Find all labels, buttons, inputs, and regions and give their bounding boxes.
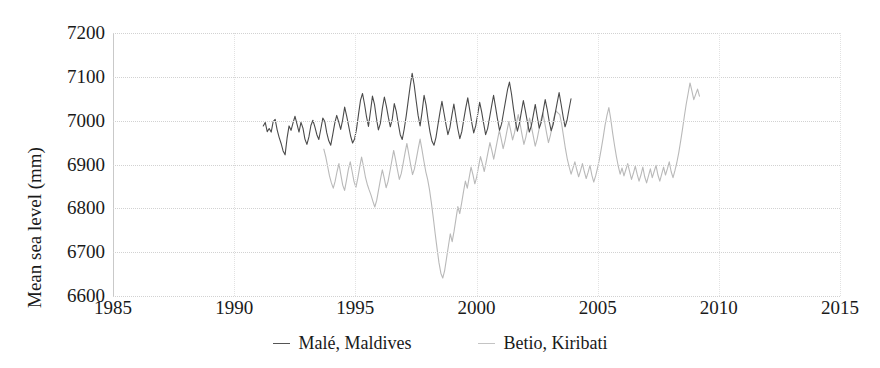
y-tick-6700: 6700 — [35, 242, 105, 261]
y-tick-7200: 7200 — [35, 23, 105, 42]
legend-label-betio: Betio, Kiribati — [504, 334, 608, 352]
y-tick-6900: 6900 — [35, 155, 105, 174]
x-tick-1990: 1990 — [189, 298, 279, 317]
legend-item-male: Malé, Maldives — [273, 334, 412, 352]
x-tick-2010: 2010 — [674, 298, 764, 317]
x-tick-1995: 1995 — [310, 298, 400, 317]
y-tick-6800: 6800 — [35, 198, 105, 217]
chart-legend: Malé, Maldives Betio, Kiribati — [0, 330, 880, 356]
legend-dash-betio-icon — [478, 343, 495, 344]
y-tick-7000: 7000 — [35, 111, 105, 130]
legend-dash-male-icon — [273, 343, 290, 344]
x-tick-2015: 2015 — [795, 298, 880, 317]
x-tick-2000: 2000 — [432, 298, 522, 317]
x-tick-2005: 2005 — [553, 298, 643, 317]
x-tick-1985: 1985 — [68, 298, 158, 317]
y-tick-7100: 7100 — [35, 67, 105, 86]
y-axis-title: Mean sea level (mm) — [25, 88, 45, 308]
legend-item-betio: Betio, Kiribati — [478, 334, 608, 352]
sea-level-chart: 7200710070006900680067006600 19851990199… — [0, 0, 880, 368]
legend-label-male: Malé, Maldives — [299, 334, 412, 352]
